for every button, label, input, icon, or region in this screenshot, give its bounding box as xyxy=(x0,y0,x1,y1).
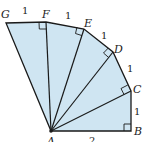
vertex-label-G: G xyxy=(1,8,10,21)
vertex-A-dot xyxy=(49,129,53,133)
edge-label-FG: 1 xyxy=(22,5,28,16)
vertex-label-F: F xyxy=(41,8,50,21)
edge-label-BC: 1 xyxy=(134,106,140,117)
vertex-label-A: A xyxy=(46,135,55,142)
edge-label-AB: 2 xyxy=(89,135,95,142)
edge-label-DE: 1 xyxy=(101,30,107,41)
vertex-label-E: E xyxy=(83,17,92,30)
right-triangle-spiral-diagram: A B C D E F G 2 1 1 1 1 1 xyxy=(0,0,143,142)
vertex-label-B: B xyxy=(133,125,142,138)
vertex-label-D: D xyxy=(113,43,123,56)
vertex-label-C: C xyxy=(133,83,142,96)
edge-label-EF: 1 xyxy=(65,10,71,21)
edge-label-CD: 1 xyxy=(127,63,133,74)
